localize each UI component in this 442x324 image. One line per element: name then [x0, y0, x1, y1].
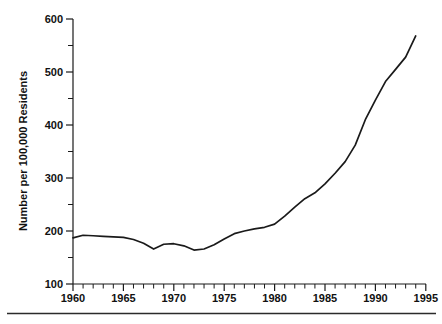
x-tick-label: 1960 [61, 292, 85, 304]
y-tick-label: 300 [45, 172, 63, 184]
y-tick-label: 500 [45, 66, 63, 78]
line-chart: Number per 100,000 Residents 600 500 400… [0, 0, 442, 324]
y-tick-label: 200 [45, 225, 63, 237]
y-tick-label: 100 [45, 278, 63, 290]
x-tick-label: 1980 [262, 292, 286, 304]
y-axis-tick-labels: 600 500 400 300 200 100 [45, 13, 63, 290]
x-tick-label: 1990 [363, 292, 387, 304]
x-axis-tick-labels: 1960 1965 1970 1975 1980 1985 1990 1995 [61, 292, 438, 304]
x-tick-label: 1975 [212, 292, 236, 304]
y-tick-label: 600 [45, 13, 63, 25]
x-tick-label: 1970 [162, 292, 186, 304]
y-tick-label: 400 [45, 119, 63, 131]
x-tick-label: 1985 [313, 292, 337, 304]
x-axis-minor-ticks [83, 284, 416, 289]
data-series-line [73, 36, 416, 250]
y-axis-minor-ticks [68, 46, 73, 258]
y-axis-title: Number per 100,000 Residents [17, 71, 29, 231]
x-tick-label: 1995 [414, 292, 438, 304]
x-tick-label: 1965 [111, 292, 135, 304]
chart-figure: Number per 100,000 Residents 600 500 400… [0, 0, 442, 324]
x-axis-major-ticks [73, 284, 426, 291]
